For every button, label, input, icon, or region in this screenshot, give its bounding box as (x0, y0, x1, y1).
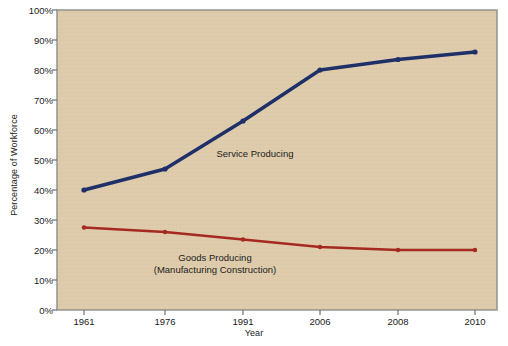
y-axis-tick-label: 80% (9, 65, 53, 76)
x-axis-ticks (84, 310, 475, 315)
x-axis-tick-label: 2010 (445, 316, 505, 327)
x-axis-tick-label: 1976 (135, 316, 195, 327)
y-axis-tick-label: 60% (9, 125, 53, 136)
data-point-marker (163, 230, 167, 234)
data-point-marker (82, 225, 86, 229)
y-axis-tick-label: 50% (9, 155, 53, 166)
data-point-marker (81, 187, 86, 192)
x-axis-tick-label: 1991 (213, 316, 273, 327)
data-point-marker (473, 248, 477, 252)
x-axis-tick-label: 1961 (54, 316, 114, 327)
y-axis-tick-label: 0% (9, 305, 53, 316)
data-point-marker (240, 118, 245, 123)
data-point-marker (318, 245, 322, 249)
x-axis-tick-label: 2008 (368, 316, 428, 327)
series-label-1: Service Producing (145, 148, 365, 160)
y-axis-tick-label: 90% (9, 35, 53, 46)
x-axis-title: Year (0, 328, 508, 338)
y-axis-tick-label: 20% (9, 245, 53, 256)
series-label-line: (Manufacturing Construction) (105, 264, 325, 276)
y-axis-tick-label: 70% (9, 95, 53, 106)
data-point-marker (317, 67, 322, 72)
data-point-marker (395, 57, 400, 62)
data-point-marker (396, 248, 400, 252)
chart-canvas (0, 0, 508, 346)
series-label-2: Goods Producing(Manufacturing Constructi… (105, 252, 325, 276)
y-axis-tick-label: 100% (9, 5, 53, 16)
y-axis-tick-label: 40% (9, 185, 53, 196)
y-axis-tick-label: 30% (9, 215, 53, 226)
data-point-marker (162, 166, 167, 171)
line-chart: Percentage of Workforce Year 0%10%20%30%… (0, 0, 508, 346)
x-axis-tick-label: 2006 (290, 316, 350, 327)
y-axis-tick-label: 10% (9, 275, 53, 286)
series-label-line: Goods Producing (105, 252, 325, 264)
series-label-line: Service Producing (145, 148, 365, 160)
data-point-marker (472, 49, 477, 54)
data-point-marker (241, 237, 245, 241)
